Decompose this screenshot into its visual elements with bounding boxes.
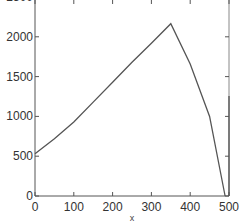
x-tick-label: 0 — [32, 200, 39, 214]
x-tick-label: 200 — [103, 200, 123, 214]
y-tick-label: 2000 — [6, 30, 33, 44]
line-chart: 05001000150020002500 0100200300400500 x — [0, 0, 242, 221]
y-tick-label: 1000 — [6, 109, 33, 123]
y-tick-label: 500 — [13, 149, 33, 163]
y-tick-label: 2500 — [6, 0, 33, 4]
data-line — [35, 24, 225, 196]
x-tick-label: 300 — [141, 200, 161, 214]
y-ticks: 05001000150020002500 — [6, 0, 229, 203]
x-tick-label: 100 — [64, 200, 84, 214]
x-axis-label: x — [130, 213, 135, 221]
y-tick-label: 1500 — [6, 70, 33, 84]
x-tick-label: 400 — [180, 200, 200, 214]
x-tick-label: 500 — [219, 200, 239, 214]
x-ticks: 0100200300400500 — [32, 0, 240, 214]
plot-area: 05001000150020002500 0100200300400500 — [6, 0, 239, 214]
